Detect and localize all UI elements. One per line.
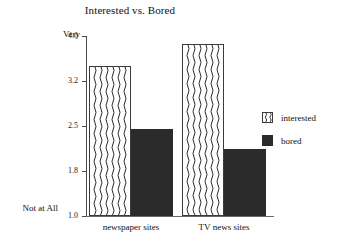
y-axis-tick-mark [82,216,86,217]
legend-swatch-interested-icon [262,112,273,123]
bar-pattern-fill [90,67,130,215]
bar-interested-newspaper-sites [89,66,131,216]
chart-title: Interested vs. Bored [0,4,260,16]
y-axis-tick-label: 1.0 [54,211,78,220]
x-axis-label-TV-news-sites: TV news sites [174,222,274,232]
wavy-pattern-icon [183,45,223,215]
bar-interested-TV-news-sites [182,44,224,216]
legend-label-interested: interested [281,113,316,123]
x-axis-line [86,216,274,217]
legend-label-bored: bored [281,136,302,146]
bar-bored-newspaper-sites [131,129,173,216]
bar-bored-TV-news-sites [224,149,266,217]
wavy-pattern-icon [90,67,130,215]
y-axis-tick-label: 4.0 [54,31,78,40]
chart-legend: interested bored [262,112,316,158]
legend-item-interested[interactable]: interested [262,112,316,123]
wavy-pattern-icon [263,113,273,123]
legend-item-bored[interactable]: bored [262,135,316,146]
axis-bottom-anchor-label: Not at All [0,203,58,213]
y-axis-tick-label: 2.5 [54,121,78,130]
bar-pattern-fill [183,45,223,215]
chart-canvas: Interested vs. Bored Very Not at All 4.0… [0,0,345,252]
x-axis-label-newspaper-sites: newspaper sites [81,222,181,232]
legend-swatch-bored-icon [262,135,273,146]
plot-area [86,36,266,216]
y-axis-tick-label: 1.8 [54,166,78,175]
y-axis-tick-label: 3.2 [54,76,78,85]
